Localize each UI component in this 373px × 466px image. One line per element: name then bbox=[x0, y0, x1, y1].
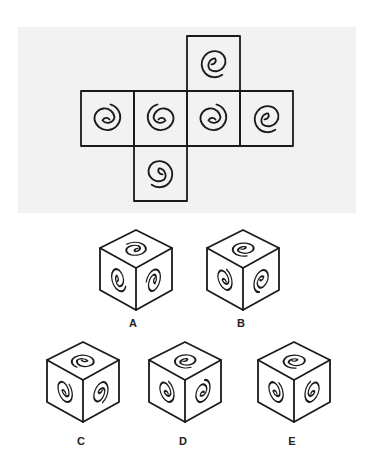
spiral-icon bbox=[249, 101, 285, 137]
cube-option-c[interactable] bbox=[43, 340, 123, 425]
option-label-d: D bbox=[173, 435, 193, 447]
cube-net bbox=[0, 0, 373, 220]
spiral-icon bbox=[148, 105, 174, 131]
spiral-icon bbox=[200, 105, 226, 131]
spiral-icon bbox=[141, 156, 177, 192]
option-label-e: E bbox=[282, 435, 302, 447]
cube-option-b[interactable] bbox=[203, 228, 283, 313]
cube-option-d[interactable] bbox=[145, 340, 225, 425]
cube-option-a[interactable] bbox=[96, 228, 176, 313]
spiral-icon bbox=[196, 46, 232, 82]
option-label-b: B bbox=[231, 317, 251, 329]
spiral-icon bbox=[94, 105, 120, 131]
option-label-c: C bbox=[71, 435, 91, 447]
cube-option-e[interactable] bbox=[254, 340, 334, 425]
option-label-a: A bbox=[123, 317, 143, 329]
